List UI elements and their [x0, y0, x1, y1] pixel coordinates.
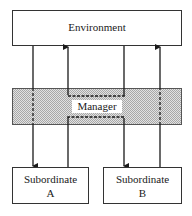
- diagram-canvas: Environment Manager Subordinate A: [0, 0, 192, 216]
- environment-node: Environment: [13, 11, 182, 46]
- subordinate-b-node: Subordinate B: [104, 168, 182, 204]
- subordinate-a-label-line2: A: [47, 187, 55, 199]
- environment-label: Environment: [68, 21, 125, 33]
- subordinate-a-node: Subordinate A: [13, 168, 89, 204]
- subordinate-b-label-line2: B: [139, 187, 146, 199]
- subordinate-b-label-line1: Subordinate: [116, 173, 169, 185]
- manager-label: Manager: [77, 100, 116, 112]
- manager-node: Manager: [13, 89, 182, 125]
- subordinate-a-label-line1: Subordinate: [24, 173, 77, 185]
